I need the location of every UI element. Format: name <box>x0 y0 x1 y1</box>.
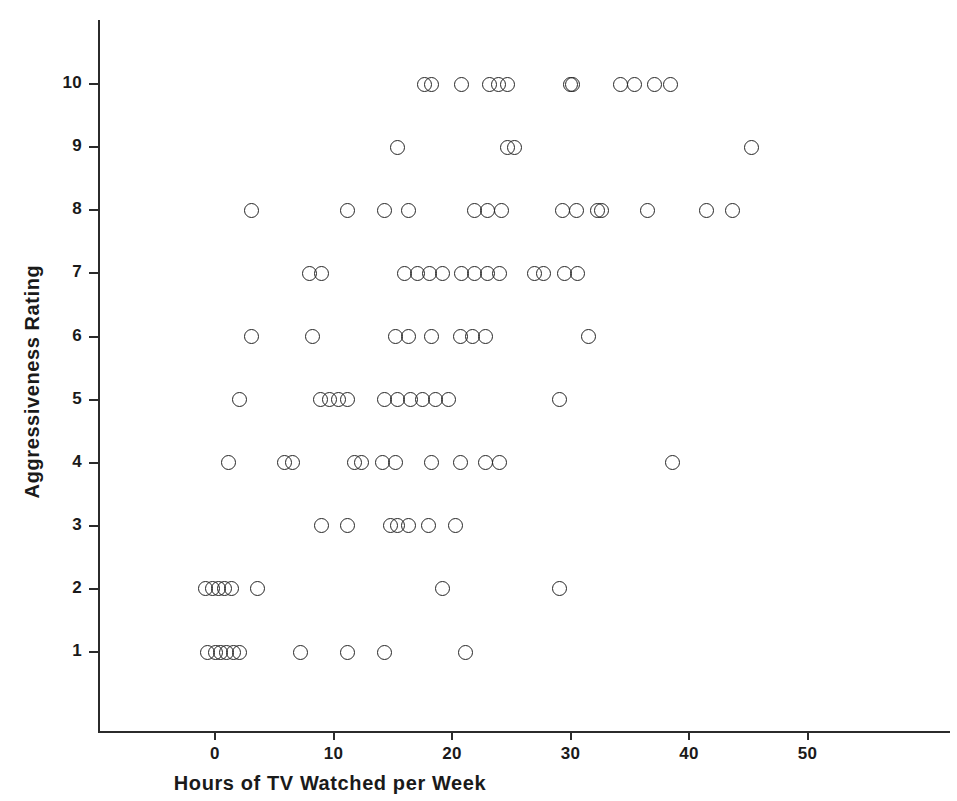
data-point <box>569 203 584 218</box>
data-point <box>208 645 223 660</box>
data-point <box>377 645 392 660</box>
data-point <box>744 140 759 155</box>
data-point <box>293 645 308 660</box>
data-point <box>421 518 436 533</box>
data-point <box>435 581 450 596</box>
data-point <box>401 203 416 218</box>
data-point <box>467 266 482 281</box>
data-point <box>340 203 355 218</box>
data-point <box>500 140 515 155</box>
y-tick-mark <box>89 399 98 401</box>
x-tick-label: 40 <box>666 744 712 764</box>
data-point <box>424 455 439 470</box>
data-point <box>390 518 405 533</box>
x-axis-title: Hours of TV Watched per Week <box>0 772 660 795</box>
data-point <box>581 329 596 344</box>
data-point <box>226 645 241 660</box>
data-point <box>453 329 468 344</box>
data-point <box>305 329 320 344</box>
data-point <box>454 77 469 92</box>
data-point <box>552 392 567 407</box>
data-point <box>340 518 355 533</box>
data-point <box>211 581 226 596</box>
data-point <box>213 645 228 660</box>
data-point <box>340 392 355 407</box>
y-tick-mark <box>89 336 98 338</box>
data-point <box>250 581 265 596</box>
data-point <box>217 581 232 596</box>
data-point <box>417 77 432 92</box>
x-tick-mark <box>570 731 572 740</box>
data-point <box>383 518 398 533</box>
y-tick-mark <box>89 462 98 464</box>
y-tick-label: 4 <box>40 452 82 472</box>
data-point <box>478 455 493 470</box>
data-point <box>458 645 473 660</box>
data-point <box>594 203 609 218</box>
data-point <box>428 392 443 407</box>
y-tick-mark <box>89 525 98 527</box>
y-tick-label: 3 <box>40 515 82 535</box>
data-point <box>205 581 220 596</box>
data-point <box>491 77 506 92</box>
data-point <box>536 266 551 281</box>
y-tick-label: 10 <box>40 73 82 93</box>
y-tick-label: 8 <box>40 199 82 219</box>
data-point <box>377 203 392 218</box>
y-tick-mark <box>89 272 98 274</box>
data-point <box>232 645 247 660</box>
data-point <box>454 266 469 281</box>
data-point <box>285 455 300 470</box>
data-point <box>200 645 215 660</box>
data-point <box>232 392 247 407</box>
data-point <box>313 392 328 407</box>
data-point <box>221 455 236 470</box>
data-point <box>375 455 390 470</box>
data-point <box>403 392 418 407</box>
x-tick-label: 50 <box>785 744 831 764</box>
data-point <box>453 455 468 470</box>
data-point <box>441 392 456 407</box>
x-tick-label: 30 <box>548 744 594 764</box>
data-point <box>665 455 680 470</box>
data-point <box>627 77 642 92</box>
x-tick-mark <box>214 731 216 740</box>
data-point <box>647 77 662 92</box>
data-point <box>435 266 450 281</box>
data-point <box>244 329 259 344</box>
y-tick-label: 7 <box>40 262 82 282</box>
data-point <box>725 203 740 218</box>
data-point <box>415 392 430 407</box>
data-point <box>410 266 425 281</box>
data-point <box>500 77 515 92</box>
y-axis-title: Aggressiveness Rating <box>21 172 44 592</box>
data-point <box>347 455 362 470</box>
data-point <box>465 329 480 344</box>
y-tick-label: 2 <box>40 578 82 598</box>
data-point <box>314 518 329 533</box>
data-point <box>478 329 493 344</box>
data-point <box>492 266 507 281</box>
data-point <box>331 392 346 407</box>
data-point <box>640 203 655 218</box>
data-point <box>480 266 495 281</box>
data-point <box>198 581 213 596</box>
y-tick-label: 6 <box>40 326 82 346</box>
data-point <box>224 581 239 596</box>
y-tick-mark <box>89 83 98 85</box>
data-point <box>699 203 714 218</box>
data-point <box>557 266 572 281</box>
data-point <box>377 392 392 407</box>
x-tick-label: 0 <box>192 744 238 764</box>
data-point <box>494 203 509 218</box>
y-tick-mark <box>89 146 98 148</box>
data-point <box>219 645 234 660</box>
data-point <box>314 266 329 281</box>
data-point <box>302 266 317 281</box>
x-tick-label: 10 <box>311 744 357 764</box>
data-point <box>448 518 463 533</box>
data-point <box>492 455 507 470</box>
data-point <box>388 329 403 344</box>
data-point <box>388 455 403 470</box>
data-point <box>552 581 567 596</box>
